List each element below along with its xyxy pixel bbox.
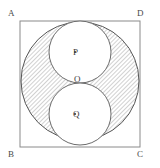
center-label-q: Q	[73, 110, 80, 119]
vertex-label-d: D	[137, 9, 144, 18]
vertex-label-a: A	[8, 9, 15, 18]
figure-canvas	[0, 0, 160, 168]
center-label-p: P	[73, 48, 78, 57]
tangent-point-label-o: O	[74, 75, 81, 84]
vertex-label-b: B	[8, 150, 14, 159]
vertex-label-c: C	[137, 150, 143, 159]
circle-q	[49, 83, 111, 145]
geometry-figure: A D B C P O Q	[0, 0, 160, 168]
